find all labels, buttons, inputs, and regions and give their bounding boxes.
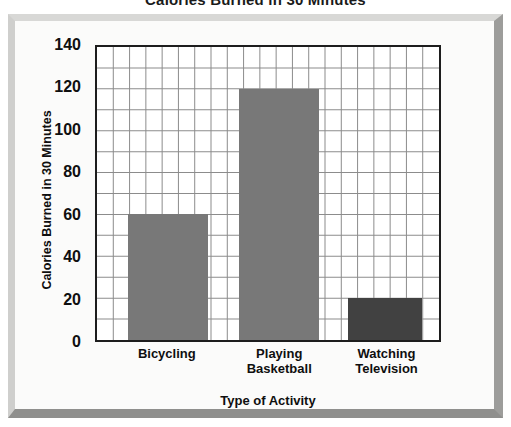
- bar-series: [97, 47, 439, 340]
- y-tick-label: 40: [63, 248, 81, 266]
- chart-canvas: Calories Burned in 30 Minutes 0204060801…: [15, 21, 494, 409]
- x-tick-label: WatchingTelevision: [329, 347, 445, 376]
- y-tick-label: 60: [63, 206, 81, 224]
- y-tick-label: 100: [54, 121, 81, 139]
- x-tick-label: PlayingBasketball: [218, 347, 341, 376]
- x-tick-label-line: Playing: [218, 347, 341, 362]
- x-axis-title: Type of Activity: [95, 393, 441, 408]
- bar-watching-television: [348, 298, 422, 340]
- x-tick-label-line: Basketball: [218, 362, 341, 377]
- y-axis-tick-labels: 020406080100120140: [15, 45, 89, 342]
- chart-title: Calories Burned in 30 Minutes: [0, 0, 511, 5]
- x-tick-label-line: Watching: [329, 347, 445, 362]
- x-tick-label: Bicycling: [105, 347, 228, 362]
- y-tick-label: 80: [63, 163, 81, 181]
- bar-playing-basketball: [239, 89, 319, 340]
- x-tick-label-line: Television: [329, 362, 445, 377]
- plot-area: [95, 45, 441, 342]
- y-tick-label: 120: [54, 78, 81, 96]
- x-tick-label-line: Bicycling: [105, 347, 228, 362]
- y-tick-label: 20: [63, 291, 81, 309]
- y-tick-label: 0: [72, 333, 81, 351]
- x-axis-tick-labels: BicyclingPlayingBasketballWatchingTelevi…: [95, 347, 441, 391]
- bar-bicycling: [128, 214, 208, 340]
- chart-frame: Calories Burned in 30 Minutes 0204060801…: [8, 14, 503, 418]
- y-tick-label: 140: [54, 36, 81, 54]
